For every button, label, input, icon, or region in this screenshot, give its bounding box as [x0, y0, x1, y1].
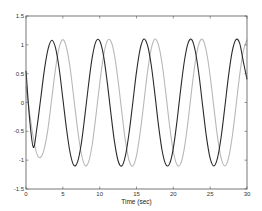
line-chart: 051015202530-1.5-1-0.500.511.5 Time (sec…: [0, 0, 262, 211]
x-tick-label: 0: [24, 191, 28, 197]
x-tick-label: 30: [244, 191, 251, 197]
y-tick-label: 1.5: [16, 13, 25, 19]
x-tick-label: 15: [133, 191, 140, 197]
y-tick-label: 0: [21, 100, 25, 106]
x-tick-label: 10: [96, 191, 103, 197]
y-tick-label: -1.5: [14, 186, 25, 192]
x-tick-label: 25: [207, 191, 214, 197]
x-tick-label: 20: [170, 191, 177, 197]
y-tick-label: -1: [19, 157, 25, 163]
y-tick-label: -0.5: [14, 128, 25, 134]
y-tick-label: 1: [21, 42, 25, 48]
x-axis-title: Time (sec): [121, 198, 151, 206]
x-tick-label: 5: [61, 191, 65, 197]
y-tick-label: 0.5: [16, 71, 25, 77]
